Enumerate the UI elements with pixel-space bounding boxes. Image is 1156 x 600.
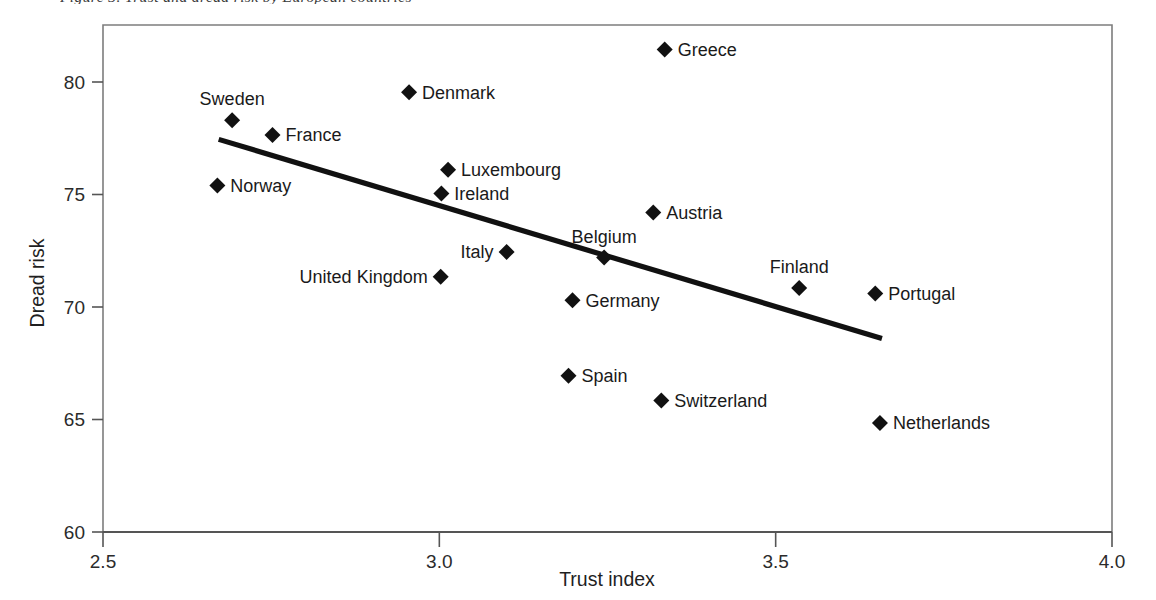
data-point: Austria bbox=[645, 203, 723, 223]
data-point-label: Luxembourg bbox=[461, 160, 561, 180]
data-point: Sweden bbox=[200, 89, 265, 128]
y-tick-label: 65 bbox=[64, 409, 85, 430]
data-point: Ireland bbox=[433, 184, 509, 204]
diamond-marker bbox=[265, 127, 281, 143]
data-point-label: Switzerland bbox=[674, 391, 767, 411]
data-point: Norway bbox=[209, 176, 291, 196]
diamond-marker bbox=[645, 205, 661, 221]
diamond-marker bbox=[224, 112, 240, 128]
y-tick-label: 80 bbox=[64, 72, 85, 93]
data-point: Greece bbox=[657, 40, 737, 60]
x-axis-ticks: 2.53.03.54.0 bbox=[90, 532, 1125, 572]
scatter-plot: 6065707580 2.53.03.54.0 Trust index Drea… bbox=[0, 0, 1156, 600]
x-tick-label: 3.5 bbox=[762, 551, 788, 572]
diamond-marker bbox=[499, 244, 515, 260]
data-point-label: Spain bbox=[581, 366, 627, 386]
diamond-marker bbox=[209, 178, 225, 194]
data-point-label: Belgium bbox=[572, 227, 637, 247]
diamond-marker bbox=[565, 292, 581, 308]
diamond-marker bbox=[791, 280, 807, 296]
data-point: United Kingdom bbox=[300, 267, 449, 287]
x-tick-label: 2.5 bbox=[90, 551, 116, 572]
data-point-label: Germany bbox=[586, 291, 660, 311]
diamond-marker bbox=[653, 392, 669, 408]
data-point-label: Greece bbox=[678, 40, 737, 60]
x-axis-title: Trust index bbox=[559, 568, 655, 590]
data-point-label: Sweden bbox=[200, 89, 265, 109]
x-tick-label: 4.0 bbox=[1099, 551, 1125, 572]
diamond-marker bbox=[867, 286, 883, 302]
data-point-group: GreeceDenmarkSwedenFranceLuxembourgNorwa… bbox=[200, 40, 990, 434]
data-point: Denmark bbox=[401, 83, 496, 103]
data-point-label: Italy bbox=[461, 242, 494, 262]
y-tick-label: 60 bbox=[64, 522, 85, 543]
data-point-label: Netherlands bbox=[893, 413, 990, 433]
diamond-marker bbox=[657, 41, 673, 57]
data-point: Switzerland bbox=[653, 391, 767, 411]
figure-root: Figure 3. Trust and dread risk by Europe… bbox=[0, 0, 1156, 600]
data-point-label: Austria bbox=[666, 203, 723, 223]
data-point: Spain bbox=[560, 366, 627, 386]
data-point-label: United Kingdom bbox=[300, 267, 428, 287]
data-point-label: Ireland bbox=[454, 184, 509, 204]
data-point-label: Norway bbox=[230, 176, 291, 196]
x-tick-label: 3.0 bbox=[426, 551, 452, 572]
y-tick-label: 75 bbox=[64, 184, 85, 205]
data-point-label: Finland bbox=[770, 257, 829, 277]
data-point: Finland bbox=[770, 257, 829, 296]
data-point: France bbox=[265, 125, 342, 145]
diamond-marker bbox=[440, 162, 456, 178]
data-point: Portugal bbox=[867, 284, 955, 304]
data-point: Netherlands bbox=[872, 413, 990, 433]
y-axis-ticks: 6065707580 bbox=[64, 72, 103, 543]
data-point: Luxembourg bbox=[440, 160, 561, 180]
data-point-label: Denmark bbox=[422, 83, 496, 103]
data-point: Germany bbox=[565, 291, 660, 311]
data-point: Italy bbox=[461, 242, 515, 262]
diamond-marker bbox=[401, 84, 417, 100]
data-point-label: Portugal bbox=[888, 284, 955, 304]
data-point-label: France bbox=[286, 125, 342, 145]
diamond-marker bbox=[560, 368, 576, 384]
y-tick-label: 70 bbox=[64, 297, 85, 318]
diamond-marker bbox=[872, 415, 888, 431]
y-axis-title: Dread risk bbox=[26, 238, 48, 327]
diamond-marker bbox=[433, 269, 449, 285]
diamond-marker bbox=[433, 185, 449, 201]
